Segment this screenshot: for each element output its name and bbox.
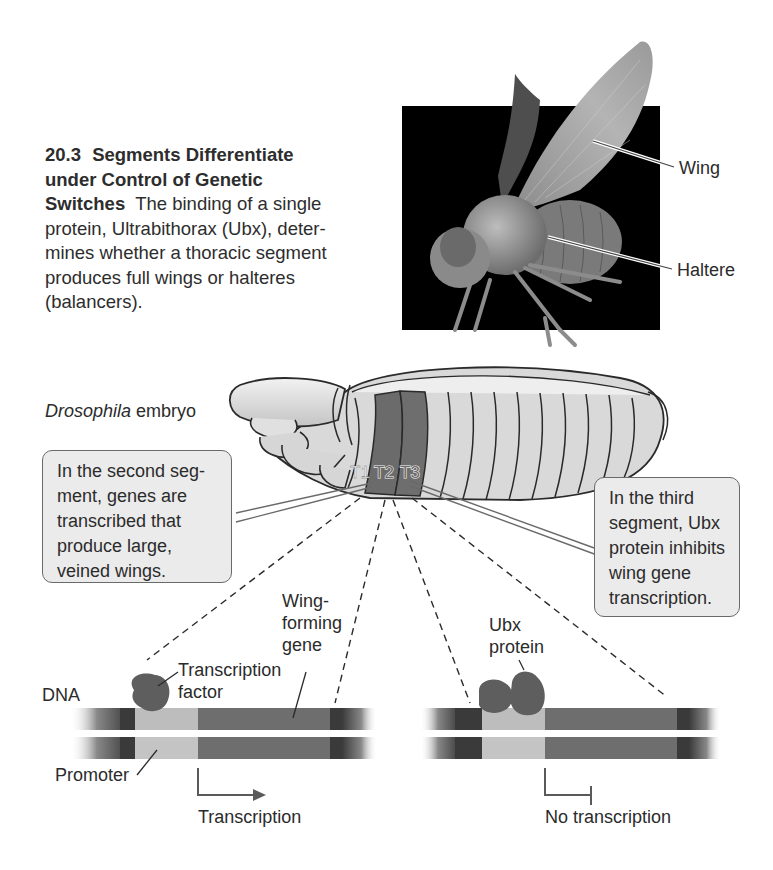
- callout-right-line: In the third: [609, 486, 727, 511]
- ubx-protein: [510, 672, 545, 716]
- callout-left-line: veined wings.: [57, 559, 219, 584]
- segment-label-t1: T1: [350, 463, 370, 482]
- embryo-label: Drosophila embryo: [45, 400, 196, 423]
- transcription-arrow: [198, 768, 255, 795]
- wing-forming-gene-region: [198, 708, 330, 730]
- dna-label: DNA: [42, 684, 80, 707]
- transcription-label: Transcription: [198, 806, 301, 829]
- fly-eye: [440, 227, 476, 267]
- callout-right-line: segment, Ubx: [609, 511, 727, 536]
- callout-left-line: produce large,: [57, 534, 219, 559]
- gene-label-line3: gene: [282, 634, 342, 656]
- gene-label-line2: forming: [282, 612, 342, 634]
- callout-second-segment: In the second seg- ment, genes are trans…: [42, 450, 232, 583]
- dna-right: [420, 660, 721, 805]
- no-transcription-label: No transcription: [545, 806, 671, 829]
- wing-forming-gene-label: Wing- forming gene: [282, 590, 342, 656]
- callout-left-line: transcribed that: [57, 509, 219, 534]
- gene-label-line1: Wing-: [282, 590, 342, 612]
- promoter-region: [135, 708, 198, 730]
- segment-label-t2: T2: [374, 463, 394, 482]
- callout-left-line: In the second seg-: [57, 459, 219, 484]
- callout-right-line: protein inhibits: [609, 536, 727, 561]
- callout-right-line: wing gene: [609, 561, 727, 586]
- tf-label-line2: factor: [178, 681, 281, 703]
- callout-third-segment: In the third segment, Ubx protein inhibi…: [594, 477, 740, 617]
- wing-label: Wing: [679, 157, 720, 180]
- haltere-label: Haltere: [677, 259, 735, 282]
- ubx-label-line1: Ubx: [489, 614, 544, 636]
- promoter-label: Promoter: [55, 764, 129, 787]
- segment-label-t3: T3: [400, 463, 420, 482]
- transcription-factor-protein: [132, 673, 170, 711]
- fly-photo: [402, 42, 674, 345]
- tf-label-line1: Transcription: [178, 659, 281, 681]
- blocked-transcription-arrow: [545, 768, 590, 795]
- embryo-label-rest: embryo: [131, 401, 196, 421]
- callout-left-line: ment, genes are: [57, 484, 219, 509]
- diagram-graphics: T1 T2 T3: [0, 0, 773, 870]
- callout-right-line: transcription.: [609, 586, 727, 611]
- transcription-factor-label: Transcription factor: [178, 659, 281, 703]
- embryo-label-genus: Drosophila: [45, 401, 131, 421]
- embryo-head: [230, 378, 345, 426]
- transcription-factor-protein-right: [479, 680, 513, 713]
- ubx-label-line2: protein: [489, 636, 544, 658]
- ubx-protein-label: Ubx protein: [489, 614, 544, 658]
